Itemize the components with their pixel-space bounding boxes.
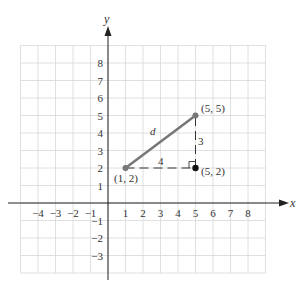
label-p3: (5, 2) bbox=[201, 165, 225, 178]
x-axis-label: x bbox=[289, 196, 296, 210]
y-tick: 2 bbox=[98, 162, 104, 174]
y-tick: −1 bbox=[91, 215, 103, 227]
y-tick-labels: 87654321−1−2−3 bbox=[91, 57, 103, 262]
point-5-5 bbox=[193, 113, 199, 119]
y-axis-label: y bbox=[103, 12, 110, 26]
x-tick: 4 bbox=[175, 207, 181, 219]
label-3: 3 bbox=[198, 135, 204, 147]
x-tick: 7 bbox=[228, 207, 234, 219]
x-tick: −3 bbox=[50, 207, 62, 219]
x-tick: 6 bbox=[210, 207, 216, 219]
label-p1: (1, 2) bbox=[114, 172, 138, 185]
label-d: d bbox=[150, 125, 156, 137]
y-tick: 5 bbox=[98, 110, 104, 122]
y-tick: −2 bbox=[91, 232, 103, 244]
x-tick: 3 bbox=[158, 207, 164, 219]
y-tick: 8 bbox=[98, 57, 104, 69]
y-tick: 4 bbox=[98, 127, 104, 139]
grid bbox=[21, 46, 266, 274]
label-4: 4 bbox=[158, 155, 164, 167]
y-tick: 3 bbox=[98, 145, 104, 157]
point-5-2 bbox=[192, 165, 198, 171]
label-p2: (5, 5) bbox=[201, 102, 225, 115]
y-tick: 6 bbox=[98, 92, 104, 104]
x-tick: 1 bbox=[123, 207, 129, 219]
x-tick: 5 bbox=[193, 207, 199, 219]
distance-plot: x y −4−3−2−112345678 87654321−1−2−3 (1, … bbox=[0, 0, 307, 291]
y-tick: 7 bbox=[98, 75, 104, 87]
y-axis bbox=[105, 26, 112, 280]
x-axis bbox=[8, 200, 289, 207]
x-tick: 8 bbox=[245, 207, 251, 219]
y-tick: −3 bbox=[91, 250, 103, 262]
point-1-2 bbox=[123, 165, 129, 171]
x-tick: −4 bbox=[32, 207, 44, 219]
x-tick-labels: −4−3−2−112345678 bbox=[32, 207, 251, 219]
x-tick: 2 bbox=[140, 207, 146, 219]
y-tick: 1 bbox=[98, 180, 104, 192]
x-tick: −2 bbox=[67, 207, 79, 219]
